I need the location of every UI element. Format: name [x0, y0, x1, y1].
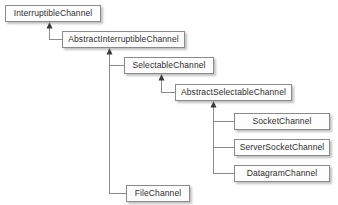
class-node-label: InterruptibleChannel	[14, 9, 93, 18]
class-node-abstract-selectable-channel[interactable]: AbstractSelectableChannel	[175, 84, 292, 101]
class-diagram-canvas: InterruptibleChannel --> AbstractInterru…	[0, 0, 338, 205]
edge-line-asc-to-sc	[162, 79, 176, 93]
class-node-label: AbstractInterruptibleChannel	[68, 35, 179, 44]
class-node-socket-channel[interactable]: SocketChannel	[234, 113, 330, 130]
class-node-label: FileChannel	[135, 189, 181, 198]
class-node-label: DatagramChannel	[247, 169, 317, 178]
class-node-server-socket-channel[interactable]: ServerSocketChannel	[234, 139, 330, 156]
class-node-label: AbstractSelectableChannel	[181, 88, 286, 97]
class-node-abstract-interruptible-channel[interactable]: AbstractInterruptibleChannel	[62, 31, 185, 48]
class-node-interruptible-channel[interactable]: InterruptibleChannel	[5, 5, 101, 22]
class-node-label: SocketChannel	[253, 117, 312, 126]
arrowhead-icon-sock-to-asc	[211, 101, 217, 108]
class-node-file-channel[interactable]: FileChannel	[126, 185, 190, 202]
class-node-selectable-channel[interactable]: SelectableChannel	[124, 57, 214, 74]
arrowhead-icon-asc-to-sc	[159, 74, 165, 81]
class-node-label: SelectableChannel	[132, 61, 205, 70]
class-node-label: ServerSocketChannel	[240, 143, 325, 152]
class-node-datagram-channel[interactable]: DatagramChannel	[234, 165, 330, 182]
arrowhead-icon-aic-to-ic	[47, 22, 53, 29]
arrowhead-icon-sc-to-aic	[107, 48, 113, 55]
